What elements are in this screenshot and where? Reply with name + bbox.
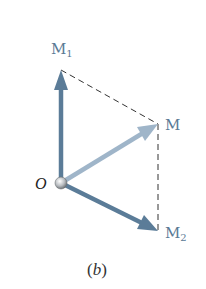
- vector-m2-arrow: [61, 183, 158, 231]
- origin-point-icon: [55, 177, 67, 189]
- label-m1-main: M: [51, 40, 66, 58]
- origin-label: O: [35, 176, 47, 192]
- dashed-line-m1-to-m: [61, 70, 158, 124]
- label-m2-subscript: 2: [180, 232, 186, 243]
- caption-letter: b: [93, 260, 102, 279]
- vector-m1-arrow: [54, 70, 68, 183]
- label-m2: M2: [165, 226, 187, 243]
- vector-m-resultant-arrow: [61, 124, 158, 183]
- label-m1-subscript: 1: [66, 48, 72, 59]
- label-m1: M1: [51, 42, 73, 59]
- label-m2-main: M: [165, 224, 180, 242]
- figure-caption: (b): [87, 261, 107, 278]
- moment-diagram: [0, 0, 206, 289]
- caption-close-paren: ): [101, 260, 107, 279]
- label-m-main: M: [165, 116, 180, 134]
- label-m: M: [165, 118, 180, 133]
